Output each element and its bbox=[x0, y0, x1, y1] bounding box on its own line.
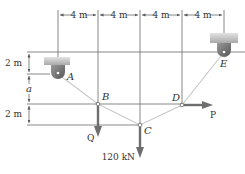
dimension-label-left-1: 2 m bbox=[5, 58, 23, 68]
dimension-label-top-1: 4 m bbox=[70, 10, 88, 20]
support-block-icon bbox=[44, 57, 70, 65]
point-label-B: B bbox=[101, 91, 109, 102]
pin-A-icon bbox=[56, 71, 60, 75]
pin-E-icon bbox=[222, 50, 226, 54]
force-Q-arrow-icon bbox=[94, 106, 102, 137]
dimension-label-top-4: 4 m bbox=[194, 10, 212, 20]
force-label-P: P bbox=[210, 110, 216, 120]
dimension-label-a: a bbox=[26, 83, 32, 94]
cable-diagram: 4 m 4 m 4 m 4 m 2 m a 2 m A E Q 120 kN bbox=[0, 0, 245, 174]
support-E bbox=[210, 33, 238, 57]
support-block-icon bbox=[210, 33, 238, 43]
point-label-D: D bbox=[171, 92, 180, 103]
force-120kN-arrow-icon bbox=[136, 127, 144, 158]
node-B-icon bbox=[96, 102, 100, 106]
force-label-Q: Q bbox=[87, 133, 94, 143]
point-label-E: E bbox=[219, 58, 228, 69]
point-label-C: C bbox=[144, 125, 152, 136]
node-C-icon bbox=[138, 123, 142, 127]
force-P-arrow-icon bbox=[184, 101, 213, 109]
cable bbox=[58, 52, 224, 125]
dimension-label-top-2: 4 m bbox=[110, 10, 128, 20]
dimension-label-top-3: 4 m bbox=[152, 10, 170, 20]
vertical-guide-lines bbox=[58, 10, 224, 125]
point-label-A: A bbox=[66, 71, 74, 82]
force-label-120kN: 120 kN bbox=[102, 152, 135, 162]
dimension-label-left-3: 2 m bbox=[5, 109, 23, 119]
node-D-icon bbox=[180, 103, 184, 107]
